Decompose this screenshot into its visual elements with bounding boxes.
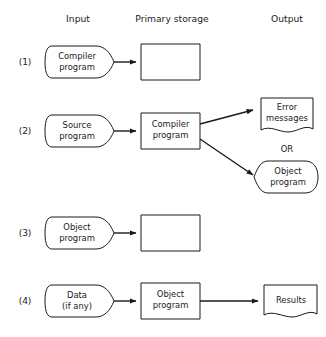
row-label-1: (1) xyxy=(19,57,32,67)
input-shape-row3-line2: program xyxy=(59,233,95,243)
output-object-program-line1: Object xyxy=(274,166,302,176)
row-label-2: (2) xyxy=(19,126,32,136)
input-shape-row3-line1: Object xyxy=(63,222,91,232)
input-shape-row1-line2: program xyxy=(59,62,95,72)
storage-box-row4-line1: Object xyxy=(157,289,185,299)
storage-box-row2-line2: program xyxy=(153,130,189,140)
output-results-label: Results xyxy=(276,295,306,305)
or-label: OR xyxy=(281,144,294,154)
storage-box-row4-line2: program xyxy=(153,300,189,310)
arrow-row2-storage-to-object-program xyxy=(200,139,253,175)
column-header-input: Input xyxy=(66,13,90,24)
column-header-output: Output xyxy=(271,13,303,24)
compiler-process-diagram: Input Primary storage Output (1) Compile… xyxy=(0,0,326,337)
input-shape-row1-line1: Compiler xyxy=(58,51,96,61)
input-shape-row2-line2: program xyxy=(59,131,95,141)
row-label-3: (3) xyxy=(19,228,32,238)
output-object-program-line2: program xyxy=(270,177,306,187)
output-error-messages-line2: messages xyxy=(266,113,308,123)
arrow-row2-storage-to-error-messages xyxy=(200,110,253,124)
storage-box-row2-line1: Compiler xyxy=(152,119,190,129)
diagram-canvas: Input Primary storage Output (1) Compile… xyxy=(0,0,326,337)
output-error-messages-line1: Error xyxy=(277,102,298,112)
column-header-primary-storage: Primary storage xyxy=(135,13,209,24)
input-shape-row4-line2: (if any) xyxy=(62,301,92,311)
storage-box-row3 xyxy=(141,215,200,251)
row-label-4: (4) xyxy=(19,296,32,306)
input-shape-row4-line1: Data xyxy=(67,290,87,300)
input-shape-row2-line1: Source xyxy=(63,120,92,130)
storage-box-row1 xyxy=(141,44,200,80)
